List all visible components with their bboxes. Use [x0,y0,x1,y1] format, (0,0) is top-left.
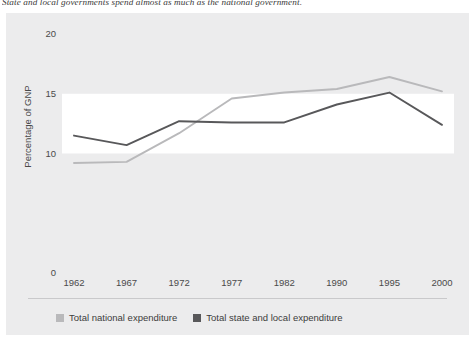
y-tick-label: 10 [32,149,56,159]
plot-area [62,34,454,273]
x-tick-label: 1967 [116,277,137,288]
legend-label: Total state and local expenditure [206,312,342,323]
grid-band [62,154,454,274]
line-chart-svg [62,34,454,273]
figure-caption: State and local governments spend almost… [2,0,472,7]
legend-item[interactable]: Total state and local expenditure [193,312,342,323]
legend-label: Total national expenditure [69,312,177,323]
legend-item[interactable]: Total national expenditure [56,312,177,323]
x-tick-label: 1990 [326,277,347,288]
grid-band [62,34,454,94]
y-tick-label: 20 [32,29,56,39]
x-tick-label: 1982 [274,277,295,288]
series-line-2 [74,93,442,146]
legend-swatch-national [56,314,64,322]
x-tick-label: 1995 [379,277,400,288]
x-tick-label: 2000 [431,277,452,288]
legend-swatch-state-local [193,314,201,322]
y-tick-label: 0 [32,268,56,278]
x-tick-label: 1962 [63,277,84,288]
y-tick-label: 15 [32,89,56,99]
x-tick-label: 1977 [221,277,242,288]
x-tick-label: 1972 [169,277,190,288]
legend-divider [28,298,447,299]
chart-legend: Total national expenditureTotal state an… [56,312,343,323]
x-axis-ticks: 19621967197219771982199019952000 [62,277,454,291]
y-axis-ticks: 2015100 [26,34,56,273]
chart-figure-panel: Percentage of GNP 2015100 19621967197219… [6,13,469,335]
